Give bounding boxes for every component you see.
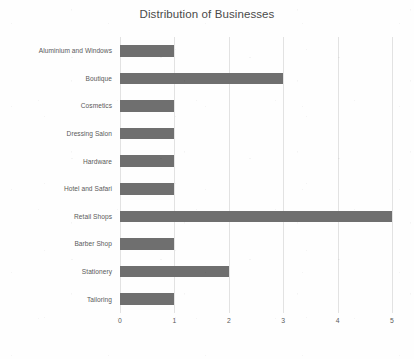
x-axis-tick-label-2: 2 [219, 317, 239, 324]
bar-aluminium-and-windows [120, 45, 174, 57]
y-axis-tick-label: Tailoring [87, 296, 116, 303]
y-axis-label-row: Dressing Salon [0, 120, 116, 148]
y-axis-tick-label: Dressing Salon [67, 130, 116, 137]
y-axis-category-labels: Aluminium and Windows Boutique Cosmetics… [0, 37, 116, 313]
y-axis-label-row: Hardware [0, 147, 116, 175]
bar-track [120, 37, 392, 65]
bar-barber-shop [120, 238, 174, 250]
y-axis-tick-label: Stationery [82, 268, 116, 275]
bar-track [120, 120, 392, 148]
y-axis-tick-label: Aluminium and Windows [39, 47, 116, 54]
gridline-5 [392, 37, 393, 313]
x-axis-tick-label-0: 0 [110, 317, 130, 324]
bar-hotel-and-safari [120, 183, 174, 195]
bar-hardware [120, 155, 174, 167]
y-axis-label-row: Barber Shop [0, 230, 116, 258]
x-axis-tick-labels: 0 1 2 3 4 5 [120, 317, 392, 331]
bar-tailoring [120, 293, 174, 305]
x-axis-tick-label-4: 4 [328, 317, 348, 324]
y-axis-tick-label: Barber Shop [74, 240, 116, 247]
y-axis-label-row: Stationery [0, 258, 116, 286]
chart-title: Distribution of Businesses [0, 8, 414, 20]
y-axis-tick-label: Retail Shops [74, 213, 116, 220]
chart-figure: Distribution of Businesses Aluminium and… [0, 0, 414, 359]
y-axis-label-row: Aluminium and Windows [0, 37, 116, 65]
y-axis-label-row: Hotel and Safari [0, 175, 116, 203]
bar-track [120, 92, 392, 120]
bar-track [120, 230, 392, 258]
y-axis-tick-label: Cosmetics [81, 102, 116, 109]
bar-track [120, 175, 392, 203]
bar-dressing-salon [120, 128, 174, 140]
y-axis-label-row: Boutique [0, 65, 116, 93]
bar-track [120, 65, 392, 93]
bar-retail-shops [120, 211, 392, 223]
y-axis-label-row: Tailoring [0, 285, 116, 313]
plot-area [120, 37, 392, 313]
bar-stationery [120, 266, 229, 278]
x-axis-tick-label-1: 1 [164, 317, 184, 324]
x-axis-tick-label-3: 3 [273, 317, 293, 324]
bar-track [120, 203, 392, 231]
y-axis-tick-label: Hotel and Safari [64, 185, 116, 192]
bar-boutique [120, 73, 283, 85]
bar-cosmetics [120, 100, 174, 112]
y-axis-tick-label: Boutique [86, 75, 116, 82]
bar-track [120, 285, 392, 313]
bar-track [120, 258, 392, 286]
y-axis-tick-label: Hardware [83, 158, 116, 165]
y-axis-label-row: Cosmetics [0, 92, 116, 120]
y-axis-label-row: Retail Shops [0, 203, 116, 231]
x-axis-tick-label-5: 5 [382, 317, 402, 324]
bar-track [120, 147, 392, 175]
